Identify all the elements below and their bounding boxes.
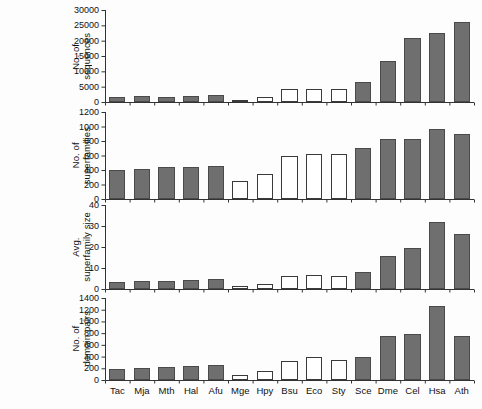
x-tick-label-Mja: Mja [134,385,149,396]
bar-Hal [183,96,199,102]
bar-Mja [134,169,150,199]
y-tick-label: 1200 [79,305,99,314]
bar-Mja [134,281,150,289]
bar-Tac [109,282,125,289]
plot-area: 010203040 [105,205,474,289]
multi-panel-bar-chart: No. of sequences050001000015000200002500… [0,0,482,409]
bar-Tac [109,170,125,199]
y-tick-label: 800 [84,329,99,338]
x-tick-label-Tac: Tac [110,385,125,396]
bar-Bsu [281,156,297,199]
bar-Hal [183,280,199,289]
x-tick-label-Eco: Eco [306,385,322,396]
x-tick-label-Mth: Mth [159,385,175,396]
x-tick-label-Bsu: Bsu [281,385,297,396]
bar-Hsa [429,222,445,289]
x-tick-label-Cel: Cel [405,385,419,396]
bar-Afu [208,166,224,199]
panel-2: No. of superfamilies02004006008001000120… [0,112,482,199]
bar-Cel [404,248,420,289]
y-tick-label: 800 [84,137,99,146]
x-tick-label-Sce: Sce [355,385,371,396]
bar-Afu [208,95,224,102]
x-tick-label-Afu: Afu [209,385,223,396]
y-tick-label: 30000 [74,6,99,15]
bar-series [105,205,474,289]
bar-Bsu [281,89,297,102]
bar-Afu [208,279,224,289]
bar-Ath [454,234,470,289]
bar-Hpy [257,174,273,199]
bar-Tac [109,97,125,102]
bar-Cel [404,38,420,102]
x-tick-label-Dme: Dme [378,385,398,396]
bar-Mth [158,367,174,380]
x-tick-label-Hal: Hal [184,385,198,396]
bar-Tac [109,369,125,380]
bar-Hal [183,366,199,380]
y-tick-label: 400 [84,352,99,361]
bar-series [105,10,474,102]
y-tick-label: 600 [84,151,99,160]
bar-Ath [454,22,470,102]
y-tick-label: 30 [89,222,99,231]
panel-4: No. of domain pairs020040060080010001200… [0,298,482,380]
bar-Mge [232,286,248,289]
plot-area: 0200400600800100012001400 [105,298,474,380]
bar-Mth [158,97,174,102]
bar-Eco [306,357,322,380]
bar-Ath [454,336,470,381]
bar-series [105,112,474,199]
bar-Cel [404,139,420,199]
bar-Ath [454,134,470,199]
bar-Sty [331,276,347,289]
bar-Sty [331,154,347,199]
y-tick-label: 0 [94,376,99,385]
bar-Mja [134,368,150,380]
bar-Dme [380,336,396,381]
y-tick-label: 1400 [79,294,99,303]
x-tick-label-Hpy: Hpy [256,385,273,396]
bar-Sce [355,148,371,199]
y-tick-label: 1200 [79,108,99,117]
y-tick-label: 0 [94,98,99,107]
bar-Dme [380,256,396,289]
x-tick-label-Mge: Mge [231,385,249,396]
y-tick-label: 15000 [74,52,99,61]
bar-Mge [232,375,248,380]
y-tick-label: 400 [84,166,99,175]
y-tick-label: 5000 [79,82,99,91]
bar-Mth [158,281,174,289]
y-tick-label: 1000 [79,317,99,326]
bar-series [105,298,474,380]
bar-Bsu [281,361,297,380]
bar-Cel [404,334,420,380]
bar-Bsu [281,276,297,289]
bar-Sce [355,357,371,380]
bar-Eco [306,154,322,199]
x-tick-label-Ath: Ath [455,385,469,396]
plot-area: 020040060080010001200 [105,112,474,199]
bar-Sce [355,82,371,102]
bar-Hsa [429,306,445,380]
y-tick-label: 25000 [74,21,99,30]
bar-Hsa [429,33,445,102]
y-tick-label: 20 [89,243,99,252]
bar-Mge [232,100,248,102]
y-tick-label: 600 [84,340,99,349]
y-tick-label: 10 [89,264,99,273]
panel-1: No. of sequences050001000015000200002500… [0,10,482,102]
y-tick-label: 200 [84,364,99,373]
bar-Hpy [257,371,273,380]
y-tick-label: 1000 [79,122,99,131]
bar-Hsa [429,129,445,199]
bar-Sty [331,360,347,381]
x-tick-label-Sty: Sty [332,385,346,396]
bar-Afu [208,365,224,380]
bar-Sce [355,272,371,289]
x-tick-label-Hsa: Hsa [429,385,446,396]
bar-Hal [183,167,199,199]
bar-Dme [380,61,396,102]
bar-Mja [134,96,150,102]
y-tick-label: 200 [84,180,99,189]
